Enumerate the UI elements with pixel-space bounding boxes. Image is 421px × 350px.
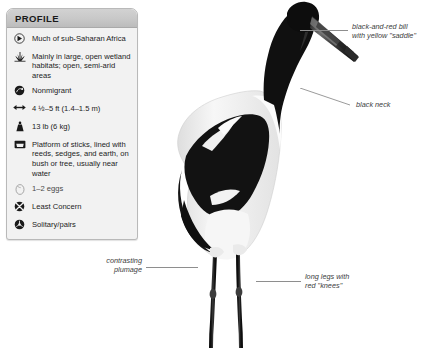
profile-card: PROFILE Much of sub-Saharan Africa (6, 8, 138, 240)
annotation-plumage: contrasting plumage (82, 256, 142, 274)
profile-row-eggs-text: 1–2 eggs (32, 183, 63, 193)
bird-knee-left (210, 289, 217, 299)
leader-line-neck (300, 88, 352, 106)
profile-row-nest-text: Platform of sticks, lined with reeds, se… (32, 139, 131, 178)
leader-line-bill (300, 30, 348, 31)
profile-card-header: PROFILE (7, 9, 137, 28)
profile-row-weight: 13 lb (6 kg) (12, 121, 131, 134)
profile-row-habitat: Mainly in large, open wetland habitats; … (12, 51, 131, 80)
profile-row-social-text: Solitary/pairs (32, 219, 76, 229)
profile-row-migration-text: Nonmigrant (32, 85, 71, 95)
leader-line-legs (256, 281, 301, 282)
nest-icon (12, 139, 27, 152)
bird-knee-right (236, 287, 243, 297)
profile-row-eggs: 1–2 eggs (12, 183, 131, 196)
profile-row-weight-text: 13 lb (6 kg) (32, 121, 70, 131)
conservation-status-icon (12, 201, 27, 214)
profile-row-migration: Nonmigrant (12, 85, 131, 98)
length-arrows-icon (12, 103, 27, 116)
profile-row-range-text: Much of sub-Saharan Africa (32, 33, 126, 43)
bird-leg-right (238, 251, 241, 348)
profile-row-conservation-text: Least Concern (32, 201, 81, 211)
weight-icon (12, 121, 27, 134)
annotation-bill: black-and-red bill with yellow "saddle" (352, 22, 416, 40)
profile-row-social: Solitary/pairs (12, 219, 131, 232)
bird-illustration (140, 0, 360, 350)
range-globe-icon (12, 33, 27, 46)
illustration-page: PROFILE Much of sub-Saharan Africa (0, 0, 421, 350)
social-pair-icon (12, 219, 27, 232)
profile-row-habitat-text: Mainly in large, open wetland habitats; … (32, 51, 131, 80)
leader-line-plumage (146, 267, 198, 268)
egg-icon (12, 183, 27, 196)
migration-arrow-icon (12, 85, 27, 98)
page-title: PROFILE (15, 13, 59, 24)
profile-row-length: 4 ½–5 ft (1.4–1.5 m) (12, 103, 131, 116)
profile-row-nest: Platform of sticks, lined with reeds, se… (12, 139, 131, 178)
profile-row-conservation: Least Concern (12, 201, 131, 214)
profile-row-range: Much of sub-Saharan Africa (12, 33, 131, 46)
annotation-legs: long legs with red "knees" (305, 272, 349, 290)
habitat-grass-icon (12, 51, 27, 64)
profile-row-length-text: 4 ½–5 ft (1.4–1.5 m) (32, 103, 100, 113)
profile-card-body: Much of sub-Saharan Africa Mainly in lar… (7, 28, 137, 239)
bird-leg-left (211, 254, 215, 348)
annotation-neck: black neck (356, 100, 390, 109)
